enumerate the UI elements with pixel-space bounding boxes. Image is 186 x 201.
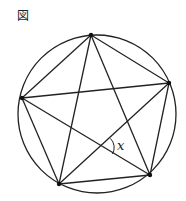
inscribed-pentagon-diagram: x	[0, 0, 186, 201]
diagonal-bottomleft-right	[59, 83, 169, 184]
vertex-bottom-right	[148, 173, 152, 177]
edge-left-top	[22, 35, 91, 98]
vertex-top	[89, 33, 93, 37]
angle-x-label: x	[117, 138, 125, 153]
diagonal-top-bottomright	[91, 35, 150, 175]
diagonal-left-right	[22, 83, 169, 98]
diagonal-left-bottomright	[22, 98, 150, 175]
vertex-right	[167, 81, 171, 85]
edge-right-bottomright	[150, 83, 169, 175]
circumscribed-circle	[18, 35, 176, 193]
diagonal-top-bottomleft	[59, 35, 91, 184]
edge-bottomleft-left	[22, 98, 59, 184]
vertex-bottom-left	[57, 182, 61, 186]
vertex-left	[20, 96, 24, 100]
